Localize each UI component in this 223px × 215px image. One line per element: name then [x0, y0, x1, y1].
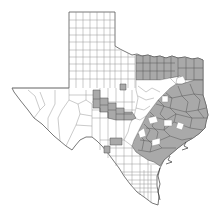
- unshaded-county: [164, 120, 172, 126]
- shaded-county: [104, 146, 110, 153]
- unshaded-county: [162, 96, 168, 102]
- shaded-county: [110, 138, 122, 145]
- texas-county-map: [0, 0, 223, 215]
- shaded-county: [120, 84, 126, 90]
